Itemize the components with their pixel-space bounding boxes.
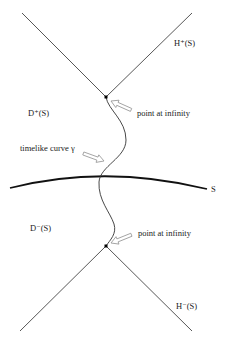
point-at-infinity-top <box>105 96 108 99</box>
label-future-horizon: H⁺(S) <box>174 39 195 48</box>
timelike-curve <box>99 97 126 246</box>
surface-s <box>10 176 207 189</box>
arrow-icon-bottom <box>110 231 133 247</box>
causal-diagram <box>0 0 227 342</box>
label-surface-s: S <box>211 185 216 194</box>
point-at-infinity-bottom <box>105 245 108 248</box>
arrow-icon-timelike <box>82 150 105 165</box>
label-point-at-infinity-bottom: point at infinity <box>138 229 191 238</box>
future-horizon-right <box>106 13 192 97</box>
future-horizon-left <box>22 13 106 97</box>
label-future-domain: D⁺(S) <box>28 109 49 118</box>
label-past-domain: D⁻(S) <box>30 224 51 233</box>
label-past-horizon: H⁻(S) <box>176 302 197 311</box>
label-timelike-curve: timelike curve γ <box>20 144 75 153</box>
past-horizon-right <box>106 246 192 331</box>
past-horizon-left <box>20 246 106 331</box>
label-point-at-infinity-top: point at infinity <box>137 109 190 118</box>
